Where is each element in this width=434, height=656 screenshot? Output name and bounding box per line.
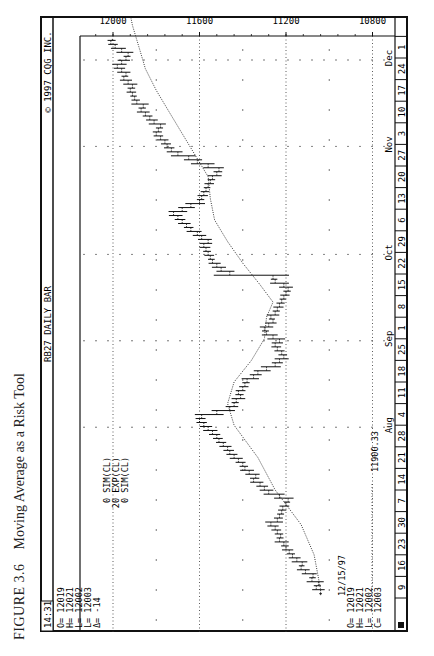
month-grid-dot xyxy=(311,59,312,60)
month-grid-dot xyxy=(263,340,264,341)
month-grid-dot xyxy=(227,427,228,428)
grid-dot xyxy=(156,529,157,530)
month-grid-dot xyxy=(251,340,252,341)
month-grid-dot xyxy=(215,427,216,428)
month-grid-dot xyxy=(107,59,108,60)
date-tick-label: 1 xyxy=(397,44,407,49)
month-grid-dot xyxy=(359,59,360,60)
grid-dot xyxy=(242,289,243,290)
month-grid-dot xyxy=(155,254,156,255)
grid-dot xyxy=(156,109,157,110)
figure-number: FIGURE 3.6 xyxy=(12,563,27,640)
grid-dot xyxy=(156,139,157,140)
month-grid-dot xyxy=(371,427,372,428)
month-grid-dot xyxy=(179,59,180,60)
month-grid-dot xyxy=(239,427,240,428)
month-grid-dot xyxy=(215,146,216,147)
month-grid-dot xyxy=(275,146,276,147)
month-grid-dot xyxy=(143,340,144,341)
grid-dot xyxy=(156,319,157,320)
grid-dot xyxy=(156,409,157,410)
grid-dot xyxy=(329,469,330,470)
grid-dot xyxy=(329,349,330,350)
symbol-title: RB27 DAILY BAR xyxy=(43,285,53,361)
grid-dot xyxy=(242,259,243,260)
month-grid-dot xyxy=(119,340,120,341)
month-grid-dot xyxy=(191,254,192,255)
grid-dot xyxy=(156,559,157,560)
date-strip-marker xyxy=(398,622,404,628)
grid-dot xyxy=(156,349,157,350)
month-grid-dot xyxy=(191,427,192,428)
month-grid-dot xyxy=(335,254,336,255)
grid-dot xyxy=(329,229,330,230)
month-grid-dot xyxy=(167,254,168,255)
date-tick-label: 7 xyxy=(397,498,407,503)
month-grid-dot xyxy=(299,59,300,60)
grid-dot xyxy=(329,259,330,260)
copyright: © 1997 CQG INC. xyxy=(43,31,53,112)
date-tick-label: 10 xyxy=(397,107,407,118)
grid-dot xyxy=(242,349,243,350)
month-grid-dot xyxy=(311,146,312,147)
month-grid-dot xyxy=(251,254,252,255)
month-grid-dot xyxy=(275,427,276,428)
price-tick-label: 11600 xyxy=(186,16,213,26)
grid-dot xyxy=(156,259,157,260)
month-grid-dot xyxy=(215,340,216,341)
month-grid-dot xyxy=(227,146,228,147)
month-grid-dot xyxy=(191,146,192,147)
last-bar-close: C= 12003 xyxy=(373,587,383,628)
grid-dot xyxy=(242,109,243,110)
month-grid-dot xyxy=(323,146,324,147)
chart-frame: 14:31 RB27 DAILY BAR © 1997 CQG INC. 120… xyxy=(40,16,408,632)
month-grid-dot xyxy=(287,59,288,60)
month-grid-dot xyxy=(143,146,144,147)
month-grid-dot xyxy=(167,340,168,341)
date-tick-label: 6 xyxy=(397,217,407,222)
month-grid-dot xyxy=(191,59,192,60)
month-grid-dot xyxy=(335,340,336,341)
month-grid-dot xyxy=(347,254,348,255)
date-tick-label: 22 xyxy=(397,258,407,269)
month-grid-dot xyxy=(167,59,168,60)
month-grid-dot xyxy=(143,254,144,255)
month-grid-dot xyxy=(83,340,84,341)
month-grid-dot xyxy=(239,340,240,341)
month-grid-dot xyxy=(251,427,252,428)
month-grid-dot xyxy=(275,59,276,60)
month-grid-dot xyxy=(371,146,372,147)
grid-dot xyxy=(242,409,243,410)
date-tick-label: 16 xyxy=(397,560,407,571)
grid-dot xyxy=(329,589,330,590)
month-grid-dot xyxy=(287,254,288,255)
month-grid-dot xyxy=(359,340,360,341)
month-grid-dot xyxy=(323,340,324,341)
month-grid-dot xyxy=(263,146,264,147)
grid-dot xyxy=(242,499,243,500)
grid-dot xyxy=(242,619,243,620)
date-tick-label: 20 xyxy=(397,171,407,182)
month-label: Nov xyxy=(384,136,394,152)
grid-dot xyxy=(156,589,157,590)
grid-dot xyxy=(156,49,157,50)
month-grid-dot xyxy=(227,254,228,255)
grid-dot xyxy=(156,169,157,170)
month-grid-dot xyxy=(275,340,276,341)
study-line-3: 0 SIM(CL) xyxy=(120,457,130,503)
month-grid-dot xyxy=(323,254,324,255)
date-tick-label: 21 xyxy=(397,452,407,463)
grid-dot xyxy=(329,379,330,380)
date-tick-label: 17 xyxy=(397,85,407,96)
month-grid-dot xyxy=(119,427,120,428)
month-grid-dot xyxy=(371,340,372,341)
grid-dot xyxy=(156,199,157,200)
month-grid-dot xyxy=(263,59,264,60)
month-grid-dot xyxy=(167,146,168,147)
month-grid-dot xyxy=(311,427,312,428)
month-grid-dot xyxy=(323,427,324,428)
month-grid-dot xyxy=(179,146,180,147)
month-grid-dot xyxy=(167,427,168,428)
grid-dot xyxy=(156,619,157,620)
month-grid-dot xyxy=(131,254,132,255)
